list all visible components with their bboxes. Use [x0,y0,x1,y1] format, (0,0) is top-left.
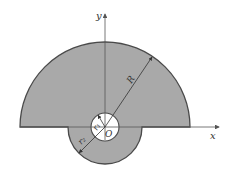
x-axis-label: x [210,130,216,141]
cross-section-diagram: y x O R r₁ r₂ [0,0,235,181]
origin-label: O [105,129,113,139]
y-axis-label: y [95,10,102,21]
